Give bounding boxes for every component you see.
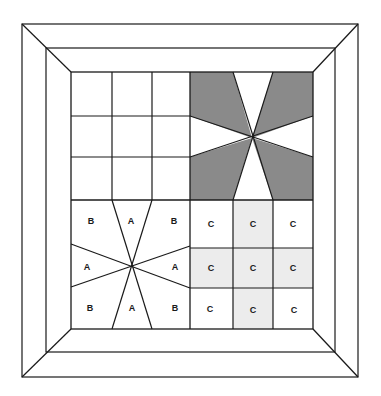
label-a-top: A	[128, 216, 135, 226]
labels-bottom-left: B A B A A B A B	[84, 216, 179, 313]
label-b-tr: B	[171, 216, 178, 226]
label-b-tl: B	[88, 216, 95, 226]
label-a-bottom: A	[129, 303, 136, 313]
label-c-r1c0: C	[208, 263, 215, 273]
block-top-right-star	[190, 72, 313, 200]
quilt-diagram: B A B A A B A B C C C C C C C C C	[0, 0, 381, 396]
label-c-r2c1: C	[250, 305, 257, 315]
label-a-right: A	[172, 262, 179, 272]
label-c-r0c0: C	[208, 219, 215, 229]
label-a-left: A	[84, 262, 91, 272]
label-c-r2c2: C	[291, 305, 298, 315]
label-c-r1c1: C	[250, 263, 257, 273]
block-top-left-grid	[71, 72, 190, 200]
label-c-r1c2: C	[290, 263, 297, 273]
label-c-r0c1: C	[250, 219, 257, 229]
label-b-br: B	[172, 303, 179, 313]
label-c-r0c2: C	[290, 219, 297, 229]
label-c-r2c0: C	[207, 304, 214, 314]
label-b-bl: B	[87, 303, 94, 313]
